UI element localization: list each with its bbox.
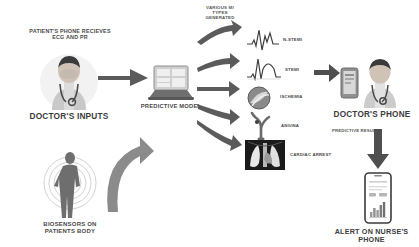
- laptop-icon: [148, 64, 194, 102]
- outcome-label-nstemi: N-STEMI: [283, 38, 317, 43]
- artery-cross-section-icon: [246, 86, 272, 110]
- arrow-doctor-to-model: [96, 60, 152, 86]
- outcome-label-stemi: STEMI: [285, 68, 315, 73]
- arrow-doctor-to-nurse-phone: [366, 128, 390, 170]
- arrow-outcomes-to-doctor-phone: [313, 62, 341, 84]
- arrow-model-to-nstemi: [196, 22, 242, 44]
- mi-types-caption: VARIOUS MI TYPES GENERATED: [192, 5, 248, 20]
- doctor-phone-caption: DOCTOR'S PHONE: [330, 110, 414, 119]
- smartphone-alert-icon: [364, 172, 392, 224]
- outcome-label-cardiac-arrest: CARDIAC ARREST: [290, 153, 338, 158]
- outcome-ischemia: [246, 86, 272, 110]
- doctor-phone-figure: [338, 56, 404, 108]
- coronary-artery-icon: [248, 112, 274, 140]
- doctor-with-phone-icon: [338, 56, 404, 108]
- outcome-stemi: [246, 57, 282, 83]
- ecg-waveform-icon: [246, 26, 280, 52]
- nurse-phone-caption: ALERT ON NURSE'S PHONE: [324, 228, 419, 245]
- outcome-angina: [248, 112, 274, 140]
- outcome-label-angina: ANGINA: [281, 124, 313, 129]
- outcome-nstemi: [246, 26, 280, 52]
- biosensors-caption: BIOSENSORS ON PATIENTS BODY: [20, 221, 120, 235]
- outcome-cardiac-arrest: [245, 140, 285, 170]
- patient-phone-caption: PATIENT'S PHONE RECIEVES ECG AND PR: [14, 28, 126, 40]
- nurse-phone-figure: [364, 172, 392, 224]
- outcome-label-ischemia: ISCHEMIA: [280, 95, 320, 100]
- ecg-waveform-icon: [246, 57, 282, 83]
- arrow-model-to-stemi: [196, 54, 240, 74]
- chest-xray-icon: [245, 140, 285, 170]
- predictive-model-figure: [148, 64, 194, 102]
- diagram-canvas: PATIENT'S PHONE RECIEVES ECG AND PR DOCT…: [0, 0, 419, 247]
- arrow-model-to-cardiac-arrest: [196, 118, 242, 148]
- arrow-model-to-ischemia: [196, 80, 240, 98]
